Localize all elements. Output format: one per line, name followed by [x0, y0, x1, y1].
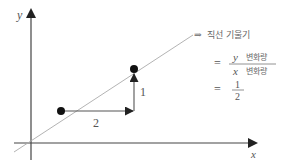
result-denominator: 2 — [235, 91, 240, 102]
result-numerator: 1 — [235, 79, 240, 90]
y-axis-label: y — [16, 8, 23, 22]
rise-label: 1 — [140, 85, 146, 99]
annotation-arrow-icon: ⇒ — [194, 30, 202, 40]
annotation-text: 직선 기울기 — [207, 30, 250, 40]
formula-equals-2: = — [214, 82, 221, 96]
point-b — [130, 65, 138, 73]
slope-diagram: y x 2 1 ⇒ 직선 기울기 = y 변화량 x 변화량 = 1 2 — [0, 0, 290, 168]
x-axis-label: x — [250, 148, 256, 160]
formula-equals-1: = — [214, 56, 221, 70]
formula-numerator-var: y — [232, 51, 238, 63]
slope-line — [14, 35, 193, 152]
run-label: 2 — [93, 116, 99, 130]
formula-numerator-text: 변화량 — [246, 52, 268, 62]
formula-denominator-var: x — [232, 65, 238, 77]
point-a — [57, 107, 65, 115]
formula-denominator-text: 변화량 — [246, 66, 268, 76]
